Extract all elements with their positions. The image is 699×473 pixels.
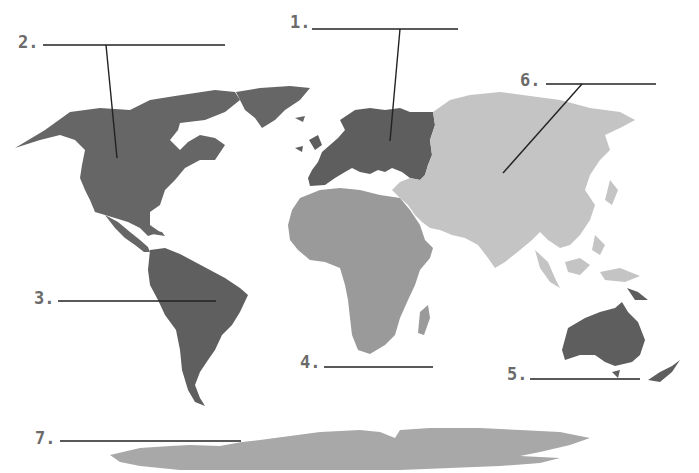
label-2: 2. bbox=[18, 32, 38, 52]
africa bbox=[288, 188, 433, 354]
label-6: 6. bbox=[520, 70, 540, 90]
antarctica bbox=[110, 428, 590, 470]
label-5: 5. bbox=[507, 364, 527, 384]
australia bbox=[562, 288, 680, 382]
label-1: 1. bbox=[290, 12, 310, 32]
south-america bbox=[148, 248, 248, 406]
europe bbox=[295, 108, 435, 186]
north-america bbox=[15, 86, 310, 252]
label-3: 3. bbox=[34, 288, 54, 308]
world-map bbox=[0, 0, 699, 473]
label-7: 7. bbox=[35, 428, 55, 448]
label-4: 4. bbox=[300, 352, 320, 372]
